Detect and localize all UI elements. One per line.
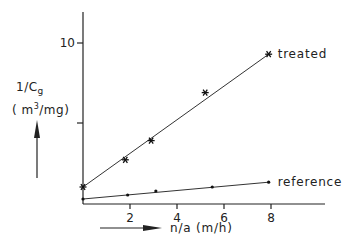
y-axis-label: 1/Cg — [16, 80, 44, 96]
asterisk-marker-icon — [202, 90, 209, 96]
series-labels: treatedreference — [278, 47, 343, 189]
x-axis-label: n/a (m/h) — [170, 221, 233, 235]
fit-line — [83, 182, 269, 199]
series — [80, 51, 273, 200]
series-reference — [81, 181, 270, 201]
dot-marker-icon — [154, 189, 157, 192]
chart-canvas: 246810 treatedreference n/a (m/h) — [0, 0, 357, 247]
x-axis-arrow-icon — [100, 225, 162, 231]
x-tick-label: 8 — [267, 211, 275, 225]
dot-marker-icon — [81, 197, 84, 200]
x-tick-label: 2 — [126, 211, 134, 225]
series-treated — [80, 51, 273, 190]
y-axis-arrow-icon — [34, 120, 40, 178]
y-tick-label: 10 — [60, 36, 75, 50]
dot-marker-icon — [211, 185, 214, 188]
dot-marker-icon — [126, 193, 129, 196]
tick-labels: 246810 — [60, 36, 275, 225]
fit-line — [83, 54, 269, 187]
series-label-treated: treated — [278, 47, 327, 61]
series-label-reference: reference — [278, 175, 343, 189]
asterisk-marker-icon — [122, 157, 129, 163]
y-axis-unit: ( m3/mg) — [12, 102, 69, 117]
ticks — [77, 43, 271, 209]
dot-marker-icon — [267, 181, 270, 184]
